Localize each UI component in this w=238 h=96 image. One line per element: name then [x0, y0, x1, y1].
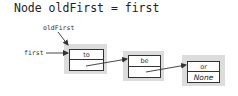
- arrow-node2-to-node3-icon: [146, 65, 186, 72]
- arrow-oldfirst-icon: [58, 32, 68, 45]
- arrow-node1-to-node2-icon: [86, 59, 127, 66]
- arrows-layer: [0, 0, 238, 96]
